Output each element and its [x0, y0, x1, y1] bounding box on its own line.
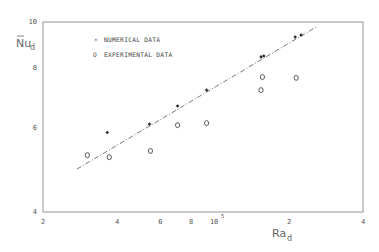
legend-experimental-label: EXPERIMENTAL DATA: [104, 51, 172, 58]
y-axis-title-sub: d: [30, 43, 35, 52]
experimental-point: [85, 153, 89, 158]
y-tick-label: 4: [33, 208, 37, 216]
x-tick-label: 2: [287, 218, 291, 226]
experimental-point: [175, 123, 179, 128]
x-tick-label: 8: [189, 218, 193, 226]
numerical-point: [299, 33, 303, 37]
x-tick-label: 10: [210, 218, 218, 226]
numerical-point: [176, 104, 180, 108]
plot-border: [43, 22, 363, 212]
legend-numerical-symbol: *: [94, 37, 98, 44]
x-axis-title-sub: d: [287, 234, 292, 243]
x-tick-label: 4: [115, 218, 119, 226]
experimental-point: [204, 121, 208, 126]
experimental-point: [294, 75, 298, 80]
y-tick-label: 10: [29, 18, 37, 26]
experimental-point: [260, 75, 264, 80]
x-tick-label: 6: [158, 218, 162, 226]
experimental-point: [148, 148, 152, 153]
x-tick-exponent: 5: [221, 213, 224, 219]
legend-numerical-label: NUMERICAL DATA: [104, 36, 160, 43]
legend-experimental-symbol: O: [93, 51, 97, 58]
numerical-point: [105, 131, 109, 135]
x-tick-label: 4: [361, 218, 365, 226]
y-axis-title-main: Nu: [16, 37, 31, 50]
y-tick-label: 8: [33, 64, 37, 72]
y-tick-label: 6: [33, 124, 37, 132]
x-axis-ticks: 246810524: [41, 213, 365, 226]
fit-line-segment: [77, 27, 316, 169]
numerical-point: [293, 35, 297, 39]
chart-canvas: 246810524 46810 * NUMERICAL DATA O EXPER…: [0, 0, 379, 252]
x-tick-label: 2: [41, 218, 45, 226]
plot-frame: [43, 22, 363, 212]
x-axis-title-main: Ra: [272, 227, 286, 240]
fit-line: [77, 27, 316, 169]
experimental-point: [259, 88, 263, 93]
experimental-point: [107, 155, 111, 160]
numerical-point: [148, 122, 152, 126]
legend: * NUMERICAL DATA O EXPERIMENTAL DATA: [93, 36, 172, 58]
y-axis-title: Nu d: [16, 36, 35, 52]
x-axis-title: Ra d: [272, 227, 292, 243]
